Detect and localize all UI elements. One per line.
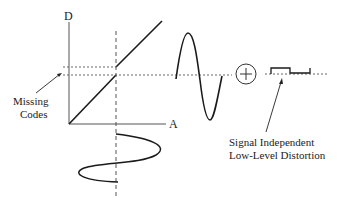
distortion-arrow-head-icon — [279, 78, 283, 84]
x-axis-label: A — [169, 117, 178, 131]
distortion-arrow — [266, 82, 281, 132]
missing-codes-label-line2: Codes — [20, 108, 48, 120]
distortion-signal: Signal Independent Low-Level Distortion — [229, 68, 327, 161]
output-sine-wave — [176, 33, 222, 120]
distortion-label-line2: Low-Level Distortion — [229, 149, 326, 161]
missing-codes-label-line1: Missing — [13, 95, 49, 107]
transfer-line-lower — [69, 75, 116, 124]
transfer-plot: D A — [63, 9, 232, 198]
distortion-step-waveform — [271, 68, 310, 74]
distortion-label-line1: Signal Independent — [229, 136, 314, 148]
input-sine-wave — [79, 134, 161, 182]
transfer-line-upper — [116, 21, 162, 67]
arrow-head-icon — [57, 73, 62, 77]
y-axis-label: D — [64, 9, 73, 23]
summation-symbol — [236, 64, 256, 84]
diagram-canvas: D A Missing Codes Signal Independent Low… — [0, 0, 344, 205]
missing-codes-annotation: Missing Codes — [13, 73, 62, 120]
missing-codes-arrow — [36, 74, 60, 93]
